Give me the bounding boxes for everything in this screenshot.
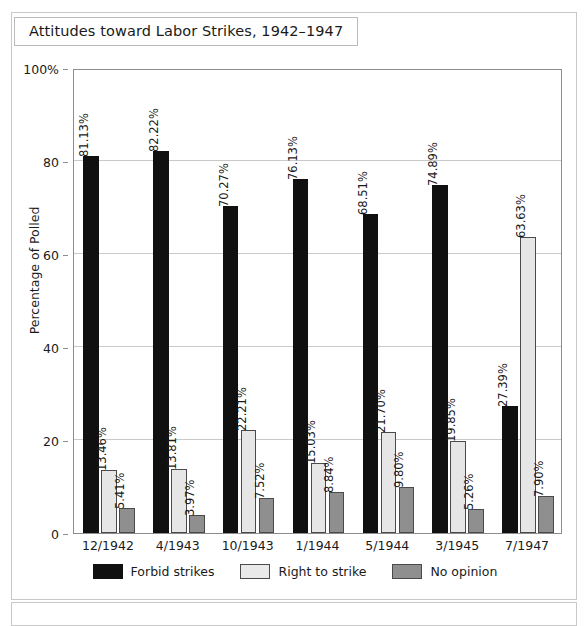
bar[interactable]: 27.39%	[502, 406, 518, 533]
legend-item[interactable]: Right to strike	[240, 564, 366, 579]
y-axis-tick-mark	[63, 255, 68, 256]
legend-label: Right to strike	[278, 564, 366, 579]
bar-value-label: 5.26%	[462, 473, 476, 510]
bar[interactable]: 76.13%	[293, 179, 309, 533]
legend-label: Forbid strikes	[131, 564, 215, 579]
bar-value-label: 3.97%	[183, 479, 197, 516]
y-axis-label: Percentage of Polled	[27, 171, 42, 371]
bar-value-label: 27.39%	[496, 363, 510, 407]
bar-value-label: 21.70%	[374, 389, 388, 433]
bar-value-label: 74.89%	[426, 142, 440, 186]
bar-group: 76.13%15.03%8.84%	[284, 70, 354, 533]
bar[interactable]: 74.89%	[432, 185, 448, 533]
bar-value-label: 13.46%	[95, 428, 109, 472]
caption-box	[11, 602, 577, 626]
bar-value-label: 63.63%	[514, 194, 528, 238]
bar[interactable]: 9.80%	[399, 487, 415, 533]
bar-value-label: 13.81%	[165, 426, 179, 470]
bar[interactable]: 5.26%	[468, 509, 484, 533]
bar-value-label: 5.41%	[113, 472, 127, 509]
bar-group: 82.22%13.81%3.97%	[144, 70, 214, 533]
chart-legend: Forbid strikesRight to strikeNo opinion	[12, 564, 578, 579]
bar-value-label: 22.21%	[235, 387, 249, 431]
bar-group: 68.51%21.70%9.80%	[353, 70, 423, 533]
y-axis-tick-label: 100%	[23, 62, 68, 77]
bar-value-label: 7.52%	[253, 463, 267, 500]
bar-value-label: 8.84%	[322, 456, 336, 493]
legend-swatch	[392, 564, 422, 579]
x-axis-tick-label: 10/1943	[222, 538, 274, 553]
y-axis-tick-mark	[63, 69, 68, 70]
legend-item[interactable]: No opinion	[392, 564, 497, 579]
x-axis-tick-label: 3/1945	[435, 538, 479, 553]
bar[interactable]: 81.13%	[83, 156, 99, 533]
legend-swatch	[93, 564, 123, 579]
bar-value-label: 9.80%	[392, 452, 406, 489]
bar-value-label: 81.13%	[77, 113, 91, 157]
bar[interactable]: 70.27%	[223, 206, 239, 533]
bar[interactable]: 68.51%	[363, 214, 379, 533]
bar-value-label: 70.27%	[217, 163, 231, 207]
x-axis-tick-label: 12/1942	[82, 538, 134, 553]
x-axis-tick-label: 5/1944	[365, 538, 409, 553]
y-axis-tick-mark	[63, 534, 68, 535]
bar-value-label: 76.13%	[286, 136, 300, 180]
bar[interactable]: 8.84%	[329, 492, 345, 533]
bar-group: 70.27%22.21%7.52%	[214, 70, 284, 533]
x-axis-tick-label: 7/1947	[505, 538, 549, 553]
plot-area: 81.13%13.46%5.41%82.22%13.81%3.97%70.27%…	[73, 69, 562, 534]
plot-wrapper: Attitudes toward Labor Strikes, 1942–194…	[12, 13, 578, 601]
bar-group: 27.39%63.63%7.90%	[493, 70, 563, 533]
legend-label: No opinion	[430, 564, 497, 579]
bar-value-label: 15.03%	[304, 420, 318, 464]
bar[interactable]: 7.52%	[259, 498, 275, 533]
bar-value-label: 7.90%	[532, 461, 546, 498]
bar[interactable]: 5.41%	[119, 508, 135, 533]
bar-value-label: 82.22%	[147, 108, 161, 152]
legend-swatch	[240, 564, 270, 579]
legend-item[interactable]: Forbid strikes	[93, 564, 215, 579]
figure-container: Attitudes toward Labor Strikes, 1942–194…	[11, 12, 577, 600]
bar-value-label: 19.85%	[444, 398, 458, 442]
chart-title: Attitudes toward Labor Strikes, 1942–194…	[14, 17, 358, 46]
x-axis-ticks: 12/19424/194310/19431/19445/19443/19457/…	[73, 536, 562, 556]
bar-group: 74.89%19.85%5.26%	[423, 70, 493, 533]
bar-value-label: 68.51%	[356, 172, 370, 216]
bar[interactable]: 7.90%	[538, 496, 554, 533]
y-axis-tick-mark	[63, 348, 68, 349]
y-axis-tick-mark	[63, 441, 68, 442]
bar-group: 81.13%13.46%5.41%	[74, 70, 144, 533]
x-axis-tick-label: 4/1943	[156, 538, 200, 553]
bar[interactable]: 82.22%	[153, 151, 169, 533]
bar[interactable]: 3.97%	[189, 515, 205, 533]
y-axis-tick-mark	[63, 162, 68, 163]
x-axis-tick-label: 1/1944	[296, 538, 340, 553]
